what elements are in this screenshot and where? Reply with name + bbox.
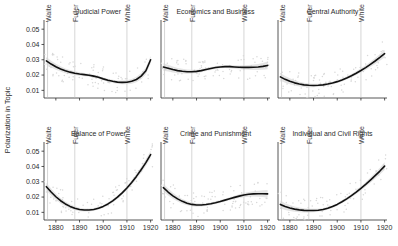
scatter-point xyxy=(122,201,124,203)
scatter-point xyxy=(304,200,306,202)
scatter-point xyxy=(152,166,154,168)
scatter-point xyxy=(62,189,64,191)
scatter-point xyxy=(327,85,329,87)
scatter-point xyxy=(339,68,341,70)
panel-title: Balance of Power xyxy=(71,130,127,137)
scatter-point xyxy=(65,210,67,212)
scatter-point xyxy=(245,202,247,204)
scatter-point xyxy=(207,198,209,200)
scatter-point xyxy=(102,70,104,72)
scatter-point xyxy=(147,74,149,76)
scatter-point xyxy=(62,197,64,199)
panel-title: Central Authority xyxy=(307,8,359,16)
scatter-point xyxy=(177,64,179,66)
scatter-point xyxy=(204,60,206,62)
scatter-point xyxy=(261,204,263,206)
chief-justice-label: White xyxy=(241,4,248,22)
scatter-point xyxy=(324,96,326,98)
scatter-point xyxy=(179,195,181,197)
scatter-point xyxy=(124,91,126,93)
scatter-point xyxy=(213,75,215,77)
scatter-point xyxy=(363,194,365,196)
x-tick-label: 1910 xyxy=(119,224,135,231)
scatter-point xyxy=(252,58,254,60)
scatter-point xyxy=(68,208,70,210)
scatter-point xyxy=(364,189,366,191)
scatter-point xyxy=(282,85,284,87)
scatter-point xyxy=(129,89,131,91)
scatter-point xyxy=(137,67,139,69)
scatter-point xyxy=(72,211,74,213)
scatter-point xyxy=(217,63,219,64)
scatter-point xyxy=(357,76,359,78)
scatter-point xyxy=(161,63,163,64)
scatter-point xyxy=(210,198,212,200)
scatter-point xyxy=(233,190,235,192)
scatter-point xyxy=(78,212,80,214)
scatter-point xyxy=(125,182,127,184)
scatter-point xyxy=(346,208,348,210)
scatter-point xyxy=(230,186,232,188)
trend-line xyxy=(46,155,150,211)
chief-justice-label: Fuller xyxy=(306,4,313,22)
scatter-point xyxy=(255,75,257,77)
scatter-point xyxy=(235,207,237,209)
scatter-point xyxy=(121,198,123,200)
scatter-point xyxy=(360,180,362,182)
scatter-point xyxy=(56,56,58,58)
scatter-point xyxy=(283,217,285,219)
scatter-point xyxy=(117,78,119,80)
scatter-point xyxy=(185,60,187,62)
scatter-point xyxy=(317,202,319,204)
scatter-point xyxy=(288,212,290,214)
scatter-point xyxy=(315,200,317,202)
scatter-point xyxy=(169,201,171,203)
scatter-point xyxy=(143,158,145,160)
chief-justice-label: Fuller xyxy=(189,4,196,22)
scatter-point xyxy=(223,78,225,80)
scatter-point xyxy=(296,216,298,218)
scatter-point xyxy=(252,204,254,206)
scatter-point xyxy=(247,201,249,203)
scatter-point xyxy=(170,207,172,209)
y-tick-label: 0.05 xyxy=(26,26,40,33)
scatter-point xyxy=(297,76,299,78)
scatter-point xyxy=(385,154,387,156)
scatter-point xyxy=(77,198,79,200)
scatter-point xyxy=(303,199,305,201)
scatter-point xyxy=(79,77,81,79)
chief-justice-label: Waite xyxy=(162,126,169,144)
scatter-point xyxy=(365,192,367,194)
scatter-point xyxy=(171,58,173,60)
scatter-point xyxy=(353,198,355,200)
scatter-point xyxy=(206,210,208,212)
scatter-point xyxy=(292,202,294,204)
x-tick-label: 1880 xyxy=(48,224,64,231)
scatter-point xyxy=(136,180,138,182)
scatter-point xyxy=(311,75,313,77)
chief-justice-label: Waite xyxy=(279,126,286,144)
scatter-point xyxy=(95,82,97,84)
scatter-point xyxy=(50,196,52,198)
scatter-point xyxy=(365,63,367,65)
scatter-point xyxy=(115,186,117,188)
chief-justice-label: White xyxy=(358,126,365,144)
scatter-point xyxy=(150,149,152,151)
scatter-point xyxy=(378,159,380,161)
scatter-point xyxy=(113,204,115,206)
scatter-point xyxy=(293,217,295,219)
scatter-point xyxy=(282,88,284,90)
scatter-point xyxy=(180,211,182,213)
scatter-point xyxy=(337,74,339,76)
x-tick-label: 1880 xyxy=(165,224,181,231)
scatter-point xyxy=(376,65,378,67)
scatter-point xyxy=(131,189,133,191)
scatter-point xyxy=(192,212,194,214)
scatter-point xyxy=(146,59,148,61)
scatter-point xyxy=(355,188,357,190)
scatter-point xyxy=(241,192,243,194)
scatter-point xyxy=(171,79,173,81)
scatter-point xyxy=(341,89,343,91)
scatter-point xyxy=(46,69,48,71)
scatter-point xyxy=(118,76,120,78)
